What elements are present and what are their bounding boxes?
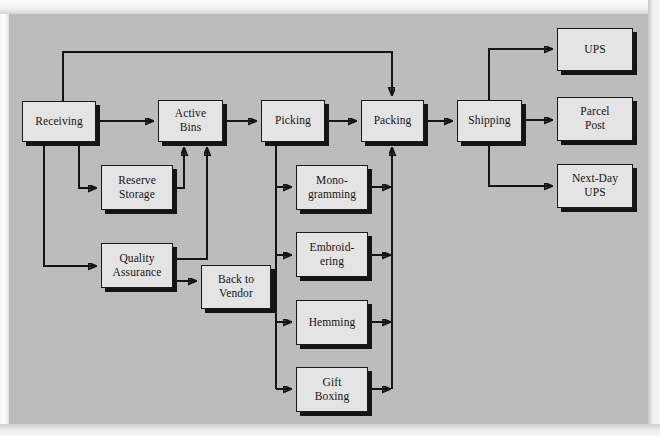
edge-reserve-storage-active-bins xyxy=(175,148,184,188)
node-back-to-vendor[interactable]: Back to Vendor xyxy=(201,265,271,309)
node-embroidering[interactable]: Embroid- ering xyxy=(296,232,368,277)
node-picking-label: Picking xyxy=(275,114,311,128)
node-packing[interactable]: Packing xyxy=(361,100,424,142)
node-ups-label: UPS xyxy=(584,43,605,57)
node-receiving-label: Receiving xyxy=(35,115,83,129)
node-shipping[interactable]: Shipping xyxy=(457,100,522,142)
node-gift-boxing-label: Gift Boxing xyxy=(315,376,349,403)
edge-receiving-quality-assurance xyxy=(44,143,96,266)
node-reserve-storage[interactable]: Reserve Storage xyxy=(101,165,173,210)
edge-receiving-reserve-storage xyxy=(79,143,96,188)
node-monogramming-label: Mono- gramming xyxy=(308,174,356,201)
node-hemming-label: Hemming xyxy=(309,316,356,330)
node-receiving[interactable]: Receiving xyxy=(22,101,96,142)
node-next-day-ups[interactable]: Next-Day UPS xyxy=(557,164,633,208)
node-quality-assurance[interactable]: Quality Assurance xyxy=(101,243,173,288)
node-picking[interactable]: Picking xyxy=(261,100,325,142)
node-parcel-post-label: Parcel Post xyxy=(580,105,609,132)
node-shipping-label: Shipping xyxy=(468,114,510,128)
edge-shipping-ups xyxy=(489,49,552,100)
node-quality-assurance-label: Quality Assurance xyxy=(113,252,162,279)
node-monogramming[interactable]: Mono- gramming xyxy=(296,165,368,210)
node-packing-label: Packing xyxy=(374,114,412,128)
node-parcel-post[interactable]: Parcel Post xyxy=(557,97,633,141)
node-active-bins-label: Active Bins xyxy=(175,107,206,134)
edge-receiving-packing-bypass xyxy=(63,52,392,101)
node-active-bins[interactable]: Active Bins xyxy=(158,100,223,142)
node-next-day-ups-label: Next-Day UPS xyxy=(572,172,618,199)
node-gift-boxing[interactable]: Gift Boxing xyxy=(296,367,368,412)
node-reserve-storage-label: Reserve Storage xyxy=(118,174,156,201)
node-hemming[interactable]: Hemming xyxy=(296,300,368,345)
page-edge-bottom xyxy=(0,424,660,436)
page-edge-left xyxy=(0,0,9,436)
page-edge-top xyxy=(0,0,660,14)
node-embroidering-label: Embroid- ering xyxy=(310,241,355,268)
edge-quality-assurance-active-bins xyxy=(175,148,207,259)
diagram-canvas: Receiving Active Bins Picking Packing Sh… xyxy=(0,0,660,436)
node-ups[interactable]: UPS xyxy=(557,28,633,71)
edge-shipping-next-day-ups xyxy=(489,143,552,186)
node-back-to-vendor-label: Back to Vendor xyxy=(218,273,254,300)
page-edge-right xyxy=(648,0,660,436)
